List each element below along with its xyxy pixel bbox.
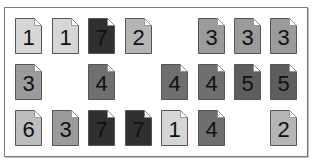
card-1[interactable]: 1 [15,18,42,54]
card-number: 7 [125,116,152,144]
card-number: 5 [234,70,261,98]
card-number: 1 [52,24,79,52]
card-number: 5 [270,70,297,98]
card-4[interactable]: 4 [161,64,188,100]
card-number: 2 [125,24,152,52]
card-4[interactable]: 4 [198,64,225,100]
card-number: 4 [198,116,225,144]
card-1[interactable]: 1 [52,18,79,54]
card-number: 4 [161,70,188,98]
card-2[interactable]: 2 [270,110,297,146]
card-4[interactable]: 4 [88,64,115,100]
card-number: 7 [88,24,115,52]
card-3[interactable]: 3 [198,18,225,54]
card-board-frame [4,7,308,157]
card-2[interactable]: 2 [125,18,152,54]
card-5[interactable]: 5 [270,64,297,100]
card-7[interactable]: 7 [88,18,115,54]
card-3[interactable]: 3 [15,64,42,100]
card-3[interactable]: 3 [52,110,79,146]
card-number: 3 [15,70,42,98]
card-6[interactable]: 6 [15,110,42,146]
card-3[interactable]: 3 [234,18,261,54]
card-number: 4 [198,70,225,98]
card-number: 3 [270,24,297,52]
card-number: 1 [161,116,188,144]
card-3[interactable]: 3 [270,18,297,54]
card-7[interactable]: 7 [125,110,152,146]
card-number: 3 [234,24,261,52]
card-number: 6 [15,116,42,144]
card-4[interactable]: 4 [198,110,225,146]
card-number: 7 [88,116,115,144]
card-number: 4 [88,70,115,98]
card-7[interactable]: 7 [88,110,115,146]
card-number: 1 [15,24,42,52]
card-1[interactable]: 1 [161,110,188,146]
card-number: 3 [198,24,225,52]
card-5[interactable]: 5 [234,64,261,100]
card-number: 3 [52,116,79,144]
card-number: 2 [270,116,297,144]
